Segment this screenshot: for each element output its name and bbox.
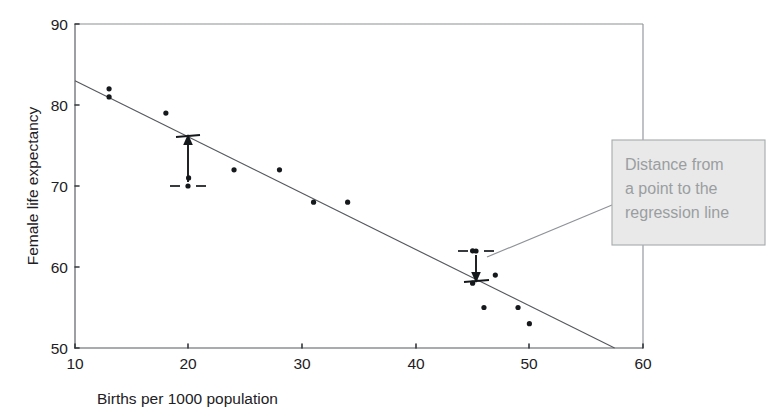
data-point [231,167,236,172]
scatter-plot: 90 80 70 60 50 10 20 30 40 50 60 Births … [0,0,781,418]
data-point [345,200,350,205]
y-axis-title: Female life expectancy [24,106,41,265]
callout-box: Distance from a point to the regression … [612,140,765,245]
marked-point-lower [185,183,190,188]
data-point [515,305,520,310]
x-axis-title: Births per 1000 population [97,390,278,407]
y-axis-ticks [75,24,79,348]
x-tick-label-10: 10 [66,355,84,372]
residual-marker-lower [170,134,206,189]
chart-canvas: 90 80 70 60 50 10 20 30 40 50 60 Births … [0,0,781,418]
regression-line [75,81,615,348]
marked-point-upper [473,248,478,253]
data-point [277,167,282,172]
data-point [311,200,316,205]
data-point [106,86,111,91]
y-tick-label-60: 60 [51,259,69,276]
y-tick-label-70: 70 [51,178,69,195]
data-points-layer [106,86,532,326]
x-tick-label-20: 20 [179,355,197,372]
callout-line-2: a point to the [625,180,718,197]
y-axis-tick-labels: 90 80 70 60 50 [51,16,69,357]
residual-marker-upper [458,248,494,283]
data-point [527,321,532,326]
data-point [481,305,486,310]
x-tick-label-50: 50 [520,355,538,372]
x-axis-ticks [75,344,643,348]
y-tick-label-90: 90 [51,16,69,33]
data-point [493,273,498,278]
x-axis-tick-labels: 10 20 30 40 50 60 [66,355,652,372]
callout-line-3: regression line [625,204,729,221]
data-point [163,111,168,116]
plot-frame [75,24,643,348]
x-tick-label-40: 40 [407,355,425,372]
y-tick-label-80: 80 [51,97,69,114]
x-tick-label-30: 30 [293,355,311,372]
callout-leader-line [487,205,612,257]
callout-line-1: Distance from [625,156,724,173]
line-cap-lower [176,135,200,137]
x-tick-label-60: 60 [634,355,652,372]
line-cap-upper [464,280,489,282]
data-point [106,94,111,99]
